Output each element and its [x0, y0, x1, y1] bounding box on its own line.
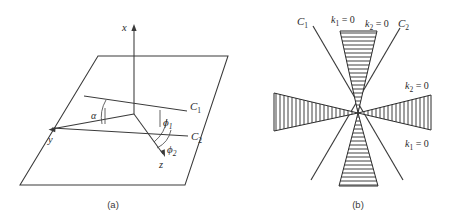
z-axis-label: z	[158, 159, 163, 170]
panel-b-c1-label: C1	[297, 15, 308, 30]
k2-zero-top-eq: = 0	[373, 18, 389, 29]
x-axis-arrowhead	[131, 24, 136, 31]
wedge-right	[358, 90, 431, 135]
panel-a-c1-label: C1	[190, 100, 201, 115]
panel-a-c1-label-sub: 1	[197, 106, 201, 115]
c2-line	[52, 128, 188, 136]
k1-zero-right-label: k1 = 0	[405, 138, 429, 152]
figure-root: x y z C1 C2 α ϕ1 ϕ2 (a)	[0, 0, 458, 219]
panel-b-c2-label: C2	[398, 17, 409, 32]
k1-zero-top-eq: = 0	[339, 14, 355, 25]
y-axis-label: y	[47, 134, 53, 145]
panel-a-c2-label: C2	[191, 130, 202, 145]
phi2-angle-label-sub: 2	[173, 149, 177, 158]
x-axis-label: x	[121, 22, 127, 33]
panel-b: C1 C2 k1 = 0 k2 = 0 k2 = 0 k1 = 0 (b)	[274, 14, 431, 210]
wedge-bottom-outline	[339, 113, 378, 186]
panel-b-c2-label-sub: 2	[405, 23, 409, 32]
z-axis-arrowhead	[161, 149, 165, 157]
x-axis-label-text: x	[121, 22, 127, 33]
k2-zero-right-label: k2 = 0	[405, 80, 429, 94]
wedge-left	[274, 88, 358, 136]
phi1-angle-label-sub: 1	[169, 122, 173, 131]
alpha-angle-label-text: α	[91, 110, 97, 121]
phi2-angle-label: ϕ2	[167, 143, 177, 158]
c1-line	[84, 96, 187, 111]
panel-a-c2-label-sub: 2	[198, 136, 202, 145]
k2-zero-top-label: k2 = 0	[365, 18, 389, 32]
alpha-angle-label: α	[91, 110, 97, 121]
z-axis-label-text: z	[158, 159, 163, 170]
panel-b-caption: (b)	[352, 199, 364, 210]
y-axis-label-text: y	[47, 134, 53, 145]
panel-a: x y z C1 C2 α ϕ1 ϕ2 (a)	[20, 22, 228, 210]
wedge-bottom	[334, 113, 383, 186]
k1-zero-top-label: k1 = 0	[331, 14, 355, 28]
k1-zero-right-eq: = 0	[413, 138, 429, 149]
k2-zero-right-eq: = 0	[413, 80, 429, 91]
panel-b-c1-label-sub: 1	[304, 21, 308, 30]
panel-a-caption: (a)	[107, 199, 119, 210]
plane-parallelogram	[20, 56, 228, 185]
